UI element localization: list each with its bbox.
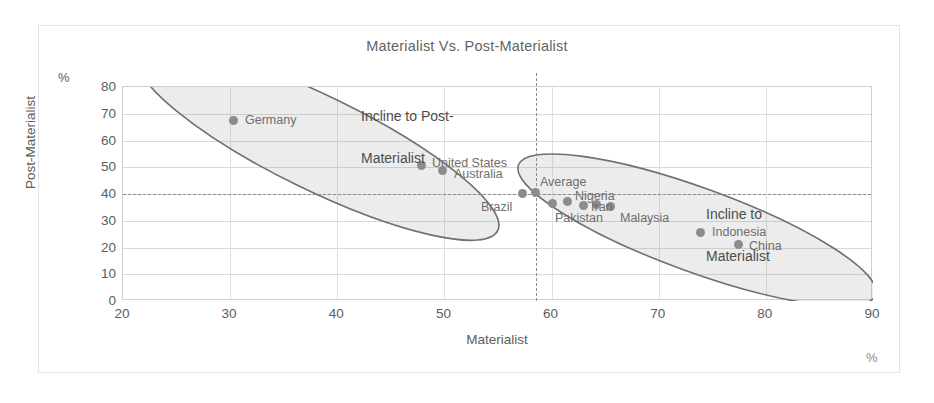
data-point-brazil[interactable]: [518, 189, 527, 198]
x-tick-20: 20: [97, 306, 147, 321]
data-label-brazil: Brazil: [481, 200, 512, 214]
annotation-right-line1: Incline to: [706, 204, 770, 225]
annotation-incline-post-materialist: Incline to Post- Materialist: [361, 85, 454, 190]
y-tick-70: 70: [70, 105, 116, 120]
y-tick-30: 30: [70, 212, 116, 227]
gridline-y-60: [123, 141, 871, 142]
plot-area: Germany United States Australia Brazil A…: [122, 86, 872, 300]
x-tick-90: 90: [847, 306, 897, 321]
data-label-germany: Germany: [245, 113, 296, 127]
annotation-incline-materialist: Incline to Materialist: [706, 183, 770, 288]
y-tick-40: 40: [70, 186, 116, 201]
y-axis-title: Post-Materialist: [23, 53, 38, 233]
data-label-australia: Australia: [454, 167, 503, 181]
y-axis-percent-symbol: %: [58, 70, 70, 85]
reference-line-x-average: [536, 73, 537, 301]
x-tick-80: 80: [740, 306, 790, 321]
x-axis-tick-labels: 20 30 40 50 60 70 80 90: [122, 306, 872, 326]
data-point-pakistan[interactable]: [548, 199, 557, 208]
gridline-x-40: [337, 87, 338, 299]
x-tick-40: 40: [311, 306, 361, 321]
y-tick-20: 20: [70, 239, 116, 254]
chart-title: Materialist Vs. Post-Materialist: [0, 38, 934, 54]
x-tick-30: 30: [204, 306, 254, 321]
x-tick-50: 50: [418, 306, 468, 321]
data-point-germany[interactable]: [229, 116, 238, 125]
y-tick-80: 80: [70, 79, 116, 94]
annotation-left-line2: Materialist: [361, 148, 454, 169]
data-point-indonesia[interactable]: [696, 228, 705, 237]
y-axis-tick-labels: 80 70 60 50 40 30 20 10 0: [64, 86, 116, 300]
annotation-right-line2: Materialist: [706, 246, 770, 267]
x-axis-percent-symbol: %: [866, 350, 878, 365]
x-tick-60: 60: [526, 306, 576, 321]
x-axis-title: Materialist: [122, 332, 872, 347]
y-tick-60: 60: [70, 132, 116, 147]
gridline-y-70: [123, 114, 871, 115]
data-point-nigeria[interactable]: [563, 197, 572, 206]
gridline-x-60: [552, 87, 553, 299]
data-label-average: Average: [540, 175, 586, 189]
annotation-left-line1: Incline to Post-: [361, 106, 454, 127]
data-point-average[interactable]: [531, 188, 540, 197]
data-label-malaysia: Malaysia: [620, 211, 669, 225]
gridline-x-70: [659, 87, 660, 299]
x-tick-70: 70: [633, 306, 683, 321]
y-tick-50: 50: [70, 159, 116, 174]
data-label-iran: Iran: [591, 200, 613, 214]
chart-figure: Materialist Vs. Post-Materialist % % 80 …: [0, 0, 934, 403]
y-tick-10: 10: [70, 266, 116, 281]
